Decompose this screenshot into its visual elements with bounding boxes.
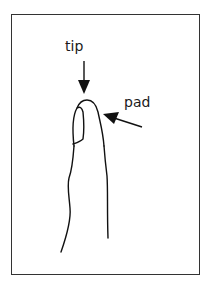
finger-diagram (0, 0, 208, 292)
finger-icon (61, 100, 108, 252)
tip-arrow (78, 61, 90, 94)
pad-arrow (103, 112, 142, 127)
